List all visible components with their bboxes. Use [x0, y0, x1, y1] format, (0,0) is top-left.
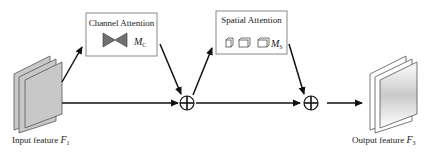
add-node-1: [180, 96, 194, 110]
spatial-attention-title: Spatial Attention: [216, 15, 287, 25]
output-label-text: Output feature: [352, 135, 404, 145]
input-feature-label: Input feature F1: [12, 134, 70, 146]
edge-channel-to-add1: [160, 44, 181, 94]
subscript-c: C: [142, 42, 146, 48]
input-label-text: Input feature: [12, 135, 58, 145]
output-feature-icon: [370, 56, 417, 133]
input-feature-icon: [14, 56, 62, 133]
output-feature-label: Output feature F3: [352, 134, 416, 146]
edge-add1-to-spatial: [193, 48, 212, 95]
channel-attention-title: Channel Attention: [86, 18, 157, 28]
input-subscript: 1: [67, 140, 70, 146]
subscript-s: S: [279, 44, 282, 50]
output-subscript: 3: [413, 140, 416, 146]
channel-attention-symbol: MC: [134, 36, 146, 48]
edge-input-to-channel: [62, 47, 82, 82]
edge-spatial-to-add2: [289, 44, 304, 94]
spatial-attention-symbol: MS: [271, 38, 283, 50]
add-node-2: [304, 96, 318, 110]
